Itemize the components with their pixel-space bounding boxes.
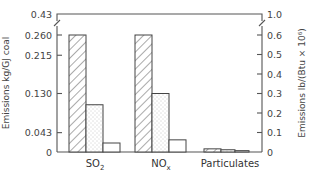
bar-so2-plain (103, 143, 120, 152)
left-axis-title: Emissions kg/GJ coal (1, 37, 11, 130)
right-tick-label: 0.4 (267, 69, 282, 80)
category-label: NOx (151, 158, 171, 172)
bar-nox-hatched (135, 35, 152, 152)
left-tick-label: 0.130 (25, 88, 52, 99)
bar-particulates-dotted (221, 150, 235, 152)
bar-so2-hatched (69, 35, 86, 152)
bars (69, 35, 249, 152)
left-tick-label: 0.215 (25, 50, 52, 61)
bar-nox-dotted (152, 94, 169, 153)
right-tick-label: 1.0 (267, 9, 282, 20)
left-tick-label: 0.260 (25, 30, 52, 41)
left-axis-ticks: 00.0430.1300.2150.2600.43 (25, 9, 62, 158)
right-axis-title: Emissions lb/(Btu × 10⁶) (297, 28, 307, 138)
left-tick-label: 0.43 (31, 9, 52, 20)
category-labels: SO2NOxParticulates (86, 158, 260, 172)
emissions-bar-chart: 00.0430.1300.2150.2600.43 00.10.20.30.40… (0, 0, 312, 175)
bar-nox-plain (169, 140, 186, 152)
category-label: SO2 (86, 158, 105, 172)
right-tick-label: 0.1 (267, 127, 282, 138)
left-tick-label: 0 (46, 147, 52, 158)
bar-so2-dotted (86, 105, 103, 152)
left-tick-label: 0.043 (25, 127, 52, 138)
right-tick-label: 0.3 (267, 88, 282, 99)
right-tick-label: 0.5 (267, 49, 282, 60)
right-tick-label: 0 (267, 147, 273, 158)
right-tick-label: 0.6 (267, 30, 282, 41)
bar-particulates-plain (235, 151, 249, 152)
bar-particulates-hatched (204, 149, 221, 152)
right-tick-label: 0.2 (267, 108, 282, 119)
right-axis-ticks: 00.10.20.30.40.50.61.0 (257, 9, 282, 158)
category-label: Particulates (201, 158, 260, 169)
